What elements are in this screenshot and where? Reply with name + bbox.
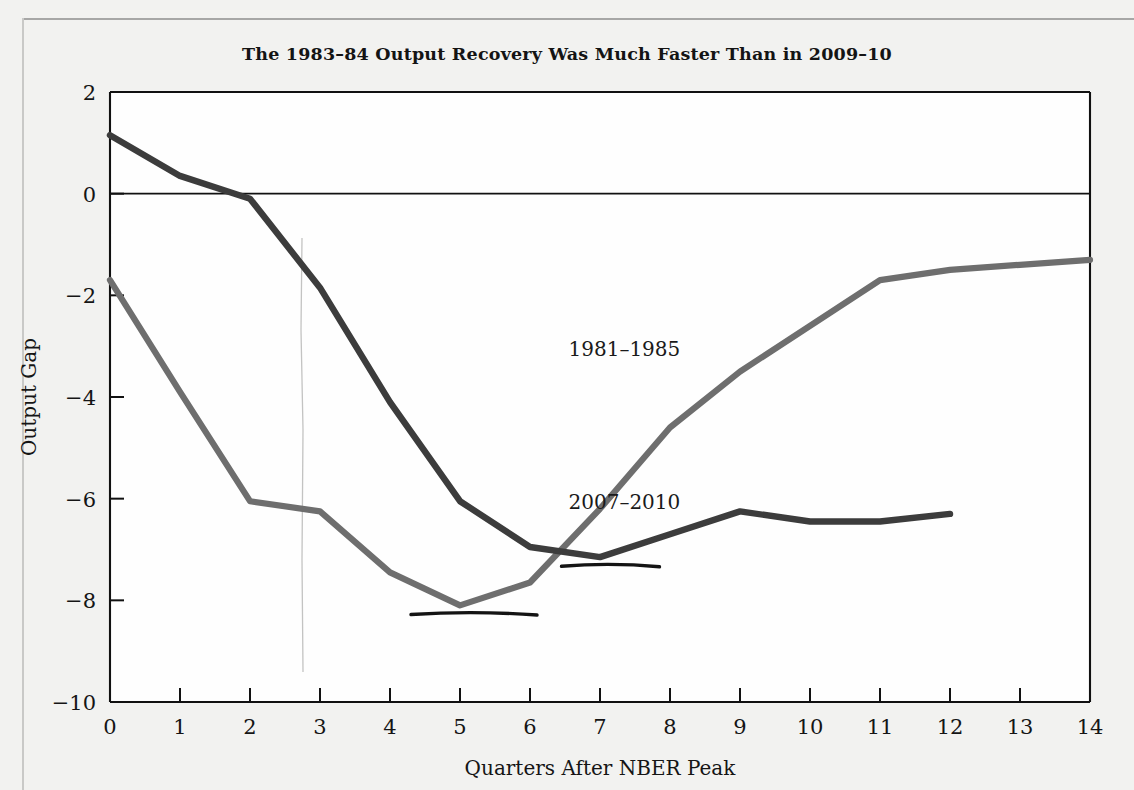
x-axis-title: Quarters After NBER Peak — [465, 756, 737, 780]
y-tick-label-1: 0 — [83, 183, 96, 207]
plot-area: 20−2−4−6−8−10 01234567891011121314 1981–… — [0, 0, 1134, 790]
x-tick-label-14: 14 — [1077, 715, 1104, 739]
x-tick-label-2: 2 — [243, 715, 256, 739]
y-tick-label-3: −4 — [65, 386, 96, 410]
y-tick-label-0: 2 — [83, 81, 96, 105]
y-tick-label-5: −8 — [65, 589, 96, 613]
x-axis-tick-labels: 01234567891011121314 — [103, 715, 1103, 739]
y-tick-label-2: −2 — [65, 284, 96, 308]
series-label-1981-1985: 1981–1985 — [569, 337, 681, 361]
y-axis-tick-labels: 20−2−4−6−8−10 — [52, 81, 96, 715]
plot-background — [110, 92, 1090, 702]
x-tick-label-4: 4 — [383, 715, 396, 739]
x-tick-label-5: 5 — [453, 715, 466, 739]
y-tick-label-6: −10 — [52, 691, 96, 715]
x-tick-label-12: 12 — [937, 715, 964, 739]
y-tick-label-4: −6 — [65, 488, 96, 512]
x-tick-label-10: 10 — [797, 715, 824, 739]
x-tick-label-11: 11 — [867, 715, 894, 739]
x-tick-label-8: 8 — [663, 715, 676, 739]
y-axis-title: Output Gap — [17, 338, 41, 456]
x-tick-label-9: 9 — [733, 715, 746, 739]
x-tick-label-3: 3 — [313, 715, 326, 739]
x-tick-label-6: 6 — [523, 715, 536, 739]
x-tick-label-13: 13 — [1007, 715, 1034, 739]
series-label-2007-2010: 2007–2010 — [569, 490, 681, 514]
chart-page: The 1983–84 Output Recovery Was Much Fas… — [0, 0, 1134, 790]
x-tick-label-7: 7 — [593, 715, 606, 739]
x-tick-label-1: 1 — [173, 715, 186, 739]
x-tick-label-0: 0 — [103, 715, 116, 739]
line-chart: 20−2−4−6−8−10 01234567891011121314 1981–… — [0, 0, 1134, 790]
